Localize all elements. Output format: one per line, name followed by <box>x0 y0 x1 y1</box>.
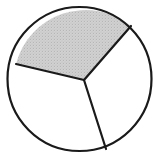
circle-sector-diagram <box>0 0 163 163</box>
figure-container <box>0 0 163 163</box>
